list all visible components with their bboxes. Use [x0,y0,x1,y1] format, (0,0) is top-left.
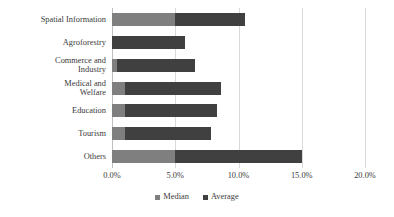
bar-rows [112,8,365,168]
bar-segment-average [112,36,185,49]
y-axis-label: Education [0,106,106,116]
x-axis-tick-label: 10.0% [209,170,269,182]
legend-item-average[interactable]: Average [203,192,239,202]
plot-area [112,8,365,168]
x-axis-tick-label: 20.0% [335,170,394,182]
stacked-bar [112,82,221,95]
bar-segment-median [112,127,125,140]
gridline-200 [365,8,366,168]
x-axis-tick-label: 15.0% [272,170,332,182]
y-axis-label: Spatial Information [0,15,106,25]
y-axis-label: Others [0,152,106,162]
legend-item-median[interactable]: Median [155,192,189,202]
bar-segment-median [112,150,175,163]
legend-swatch-icon [203,195,208,200]
y-axis-label: Commerce and Industry [0,56,106,75]
y-axis-label: Tourism [0,129,106,139]
stacked-bar-chart: Spatial InformationAgroforestryCommerce … [0,0,394,217]
legend-swatch-icon [155,195,160,200]
bar-segment-average [125,82,221,95]
legend-label: Median [163,192,189,202]
y-axis-label: Agroforestry [0,38,106,48]
bar-segment-average [117,59,195,72]
x-axis-tick-label: 0.0% [82,170,142,182]
bar-row [112,122,365,145]
bar-row [112,145,365,168]
bar-row [112,8,365,31]
stacked-bar [112,13,245,26]
bar-segment-median [112,82,125,95]
bar-segment-median [112,13,175,26]
chart-legend: MedianAverage [0,192,394,202]
x-axis-labels: 0.0%5.0%10.0%15.0%20.0% [112,170,365,184]
bar-segment-average [175,13,245,26]
bar-row [112,77,365,100]
bar-segment-average [125,127,211,140]
stacked-bar [112,59,195,72]
y-axis-labels: Spatial InformationAgroforestryCommerce … [0,8,106,168]
legend-label: Average [211,192,239,202]
bar-row [112,31,365,54]
bar-segment-average [175,150,302,163]
stacked-bar [112,127,211,140]
stacked-bar [112,36,185,49]
stacked-bar [112,104,217,117]
bar-segment-average [125,104,217,117]
stacked-bar [112,150,302,163]
bar-segment-median [112,104,125,117]
x-axis-tick-label: 5.0% [145,170,205,182]
bar-row [112,54,365,77]
bar-row [112,99,365,122]
y-axis-label: Medical and Welfare [0,79,106,98]
